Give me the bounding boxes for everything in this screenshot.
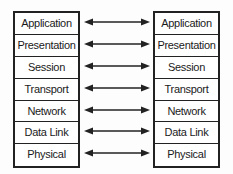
left-layer-data-link: Data Link (15, 122, 78, 144)
left-layer-presentation: Presentation (15, 35, 78, 57)
right-layer-physical: Physical (155, 144, 218, 166)
left-layer-session: Session (15, 57, 78, 79)
layer-connections (84, 11, 150, 164)
double-arrow-icon (84, 142, 150, 164)
left-layer-transport: Transport (15, 79, 78, 101)
right-layer-application: Application (155, 13, 218, 35)
right-layer-network: Network (155, 101, 218, 123)
right-layer-session: Session (155, 57, 218, 79)
left-layer-network: Network (15, 101, 78, 123)
double-arrow-icon (84, 33, 150, 55)
double-arrow-icon (84, 55, 150, 77)
left-layer-application: Application (15, 13, 78, 35)
right-layer-presentation: Presentation (155, 35, 218, 57)
double-arrow-icon (84, 120, 150, 142)
right-layer-transport: Transport (155, 79, 218, 101)
left-layer-physical: Physical (15, 144, 78, 166)
double-arrow-icon (84, 11, 150, 33)
left-osi-stack: Application Presentation Session Transpo… (13, 11, 80, 168)
double-arrow-icon (84, 99, 150, 121)
right-layer-data-link: Data Link (155, 122, 218, 144)
double-arrow-icon (84, 77, 150, 99)
right-osi-stack: Application Presentation Session Transpo… (153, 11, 220, 168)
